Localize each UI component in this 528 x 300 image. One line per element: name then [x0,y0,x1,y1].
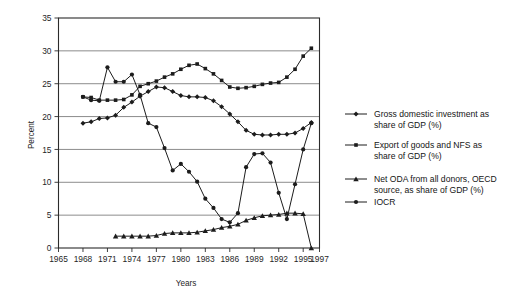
x-tick-label: 1974 [123,254,142,264]
marker-circle [187,170,191,174]
x-tick-label: 1977 [147,254,166,264]
chart-figure: 05101520253035 1965196819711974197719801… [0,0,528,300]
marker-circle [293,182,297,186]
y-axis-title-group: Percent [27,120,36,149]
marker-circle [97,99,101,103]
marker-circle [277,191,281,195]
marker-square [163,75,167,79]
marker-square [179,67,183,71]
x-axis-title: Years [176,279,197,288]
marker-square [106,98,110,102]
legend-label-line2: share of GDP (%) [374,151,442,161]
marker-circle [244,165,248,169]
marker-circle [195,180,199,184]
marker-square [310,46,314,50]
y-tick-label: 15 [42,145,52,155]
marker-square [204,67,208,71]
x-tick-label: 1997 [310,254,329,264]
y-tick-label: 0 [47,243,52,253]
marker-square [277,81,281,85]
legend-label-line2: share of GDP (%) [374,120,442,130]
marker-square [114,98,118,102]
marker-circle [130,72,134,76]
y-tick-label: 25 [42,79,52,89]
marker-circle [301,147,305,151]
marker-square [122,98,126,102]
marker-square [187,64,191,68]
x-tick-label: 1980 [172,254,191,264]
marker-square [195,62,199,66]
marker-circle [113,80,117,84]
x-tick-label: 1971 [98,254,117,264]
marker-square [130,93,134,97]
marker-square [261,83,265,87]
marker-circle [252,152,256,156]
marker-circle [268,160,272,164]
marker-square [146,82,150,86]
y-tick-label: 30 [42,46,52,56]
marker-circle [203,197,207,201]
y-axis-title: Percent [27,120,36,149]
marker-square [228,85,232,89]
marker-circle [220,217,224,221]
marker-circle [309,121,313,125]
marker-circle [146,121,150,125]
legend-label-line1: IOCR [374,197,395,207]
marker-square [138,85,142,89]
marker-circle [228,220,232,224]
marker-circle [81,95,85,99]
marker-square [220,79,224,83]
legend-label-line1: Gross domestic investment as [374,109,489,119]
marker-circle [105,65,109,69]
legend-label-line1: Net ODA from all donors, OECD [374,174,497,184]
marker-square [252,85,256,89]
legend-label-line1: Export of goods and NFS as [374,140,482,150]
x-tick-label: 1983 [196,254,215,264]
marker-circle [354,200,358,204]
marker-circle [179,162,183,166]
marker-circle [122,80,126,84]
marker-circle [236,211,240,215]
marker-circle [171,168,175,172]
legend-label-line2: source, as share of GDP (%) [374,185,484,195]
x-tick-label: 1992 [269,254,288,264]
marker-circle [154,125,158,129]
marker-square [212,72,216,76]
marker-circle [260,151,264,155]
marker-square [171,72,175,76]
x-tick-label: 1965 [49,254,68,264]
marker-square [285,75,289,79]
marker-circle [138,93,142,97]
y-tick-label: 20 [42,112,52,122]
marker-circle [285,217,289,221]
marker-square [354,143,358,147]
y-tick-label: 5 [47,210,52,220]
marker-square [244,86,248,90]
marker-square [301,54,305,58]
marker-square [236,87,240,91]
marker-circle [89,98,93,102]
x-tick-label: 1968 [74,254,93,264]
x-tick-label: 1986 [220,254,239,264]
line-chart: 05101520253035 1965196819711974197719801… [0,0,528,300]
marker-square [293,67,297,71]
y-tick-label: 10 [42,177,52,187]
marker-square [269,81,273,85]
marker-circle [211,206,215,210]
y-tick-label: 35 [42,13,52,23]
x-axis-title-group: Years [176,279,197,288]
x-tick-label: 1989 [245,254,264,264]
marker-circle [162,146,166,150]
marker-square [155,79,159,83]
